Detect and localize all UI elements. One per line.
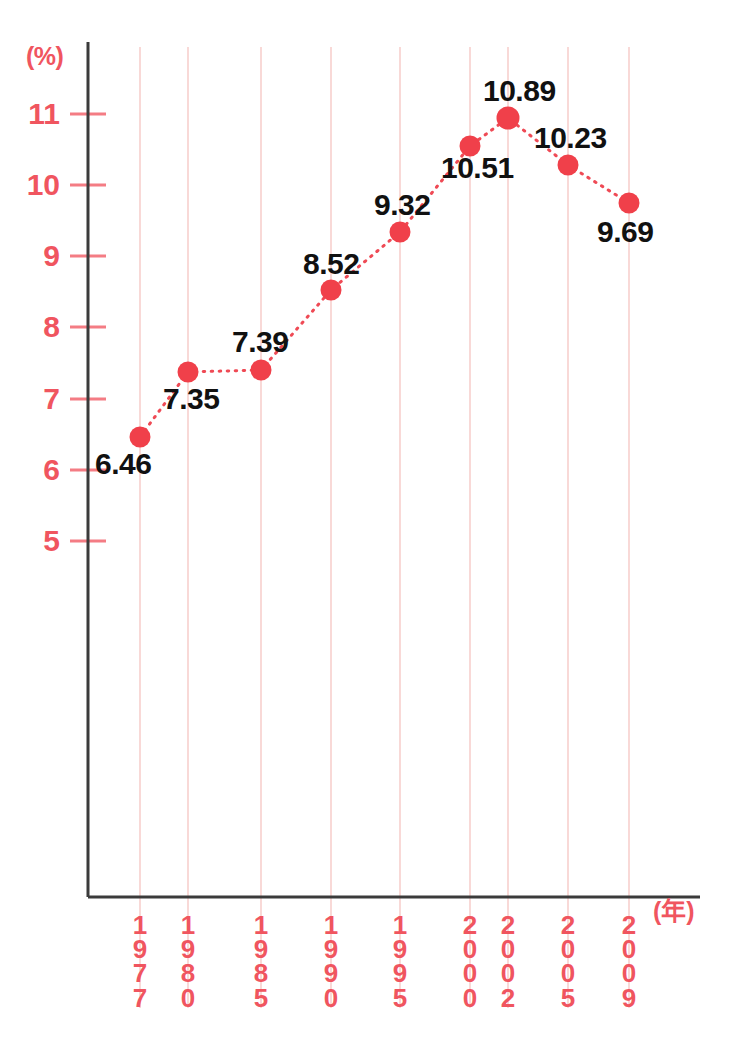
y-axis-tick-label-8: 8 [8,312,60,342]
x-axis-tick-label-2000: 2 0 0 0 [457,913,483,1010]
x-axis-tick-label-2005: 2 0 0 5 [555,913,581,1010]
line-chart: (%) 11 10 9 8 7 6 5 1 9 7 7 1 9 8 0 1 9 … [0,0,736,1052]
data-point-1990 [321,280,342,301]
data-label-2009: 9.69 [597,217,653,247]
year-digit: 9 [616,986,642,1010]
y-axis-tick-label-7: 7 [8,384,60,414]
x-axis-tick-label-1980: 1 9 8 0 [175,913,201,1010]
year-digit: 5 [387,986,413,1010]
data-label-2000: 10.51 [441,153,514,183]
y-axis-tick-label-6: 6 [8,455,60,485]
year-digit: 0 [555,961,581,985]
year-digit: 7 [127,986,153,1010]
data-label-1980: 7.35 [163,384,219,414]
year-digit: 0 [318,986,344,1010]
chart-canvas [0,0,736,1052]
y-axis-tick-label-11: 11 [8,99,60,129]
year-digit: 8 [248,961,274,985]
year-digit: 5 [248,986,274,1010]
year-digit: 0 [495,961,521,985]
year-digit: 8 [175,961,201,985]
data-point-1980 [178,362,199,383]
year-digit: 0 [457,961,483,985]
y-axis-tick-label-9: 9 [8,241,60,271]
data-point-1995 [390,222,411,243]
x-axis-unit-label: (年) [653,899,695,924]
year-digit: 0 [457,986,483,1010]
data-label-2005: 10.23 [534,123,607,153]
x-axis-tick-label-1990: 1 9 9 0 [318,913,344,1010]
data-point-2005 [558,155,579,176]
year-digit: 9 [387,961,413,985]
year-digit: 0 [175,986,201,1010]
year-digit: 9 [318,961,344,985]
data-label-1985: 7.39 [232,327,288,357]
y-axis-unit-label: (%) [26,44,63,69]
y-axis-tick-label-5: 5 [8,526,60,556]
x-axis-tick-label-1985: 1 9 8 5 [248,913,274,1010]
x-axis-tick-label-1977: 1 9 7 7 [127,913,153,1010]
x-axis-tick-label-1995: 1 9 9 5 [387,913,413,1010]
data-point-1977 [130,427,151,448]
data-label-1995: 9.32 [374,190,430,220]
year-digit: 5 [555,986,581,1010]
x-axis-tick-label-2009: 2 0 0 9 [616,913,642,1010]
year-digit: 7 [127,961,153,985]
data-label-1977: 6.46 [95,449,151,479]
data-label-1990: 8.52 [303,249,359,279]
data-point-1985 [251,360,272,381]
y-axis-tick-label-10: 10 [8,170,60,200]
x-axis-tick-label-2002: 2 0 0 2 [495,913,521,1010]
year-digit: 0 [616,961,642,985]
year-digit: 2 [495,986,521,1010]
data-point-2002 [497,107,520,130]
data-point-2009 [619,193,640,214]
data-label-2002: 10.89 [483,76,556,106]
